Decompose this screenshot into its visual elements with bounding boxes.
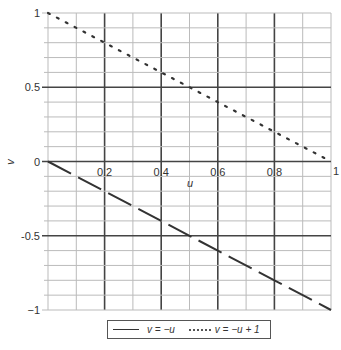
x-tick-0.4: 0.4 xyxy=(154,166,169,178)
dotted-line-swatch-icon xyxy=(189,329,211,331)
y-axis-label: v xyxy=(4,158,16,165)
legend-label: v = −u + 1 xyxy=(215,324,260,335)
y-tick-0.5: 0.5 xyxy=(25,81,40,93)
solid-line-swatch-icon xyxy=(113,329,139,330)
grid xyxy=(42,13,331,310)
x-tick-0.6: 0.6 xyxy=(210,166,225,178)
legend-item-v-neg-u: v = −u xyxy=(113,324,175,335)
y-tick-minus-0.5: -0.5 xyxy=(21,230,40,242)
y-tick-0: 0 xyxy=(34,156,40,168)
x-axis-label: u xyxy=(187,177,193,189)
chart-plot: 1 0.5 0 -0.5 −1 0.2 0.4 0.6 0.8 1 v u xyxy=(0,0,341,350)
x-tick-0.2: 0.2 xyxy=(97,166,112,178)
legend-item-v-neg-u-plus-1: v = −u + 1 xyxy=(189,324,260,335)
x-tick-1: 1 xyxy=(333,165,339,177)
y-tick-minus-1: −1 xyxy=(27,304,40,316)
legend-label: v = −u xyxy=(147,324,175,335)
legend: v = −u v = −u + 1 xyxy=(107,320,271,339)
x-tick-0.8: 0.8 xyxy=(267,166,282,178)
y-tick-1: 1 xyxy=(34,7,40,19)
